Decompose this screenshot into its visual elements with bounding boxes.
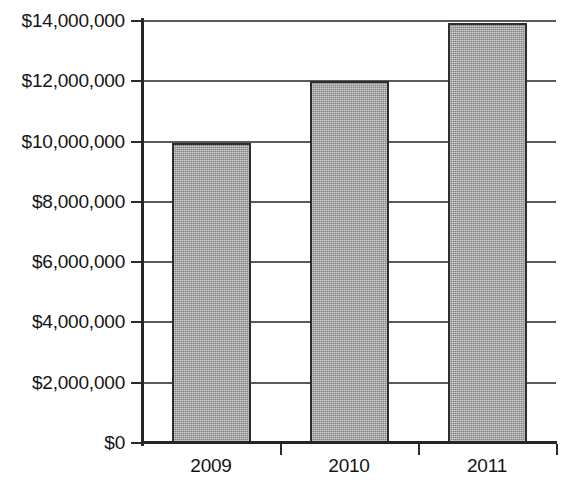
y-axis-tick-label: $8,000,000: [32, 192, 125, 211]
x-axis-tick-label: 2011: [427, 455, 547, 477]
y-axis-tick-label: $0: [104, 433, 125, 452]
x-axis-tick: [418, 444, 420, 455]
x-axis-tick: [280, 444, 282, 455]
bar-2010: [310, 81, 389, 443]
gridline: [142, 20, 556, 22]
y-axis-tick-label: $12,000,000: [22, 71, 125, 90]
bar-chart: $0$2,000,000$4,000,000$6,000,000$8,000,0…: [0, 0, 561, 481]
y-axis-tick-label: $2,000,000: [32, 373, 125, 392]
bar-2009: [172, 143, 251, 443]
bar-2011: [448, 23, 527, 443]
y-axis-tick-label: $14,000,000: [22, 11, 125, 30]
x-axis-tick-label: 2009: [151, 455, 271, 477]
y-axis-tick-label: $6,000,000: [32, 252, 125, 271]
x-axis-line: [141, 441, 557, 444]
x-axis-tick-label: 2010: [289, 455, 409, 477]
y-axis-tick-label: $10,000,000: [22, 132, 125, 151]
x-axis-tick: [556, 444, 558, 455]
y-axis-line: [141, 18, 144, 446]
y-axis-tick-label: $4,000,000: [32, 312, 125, 331]
